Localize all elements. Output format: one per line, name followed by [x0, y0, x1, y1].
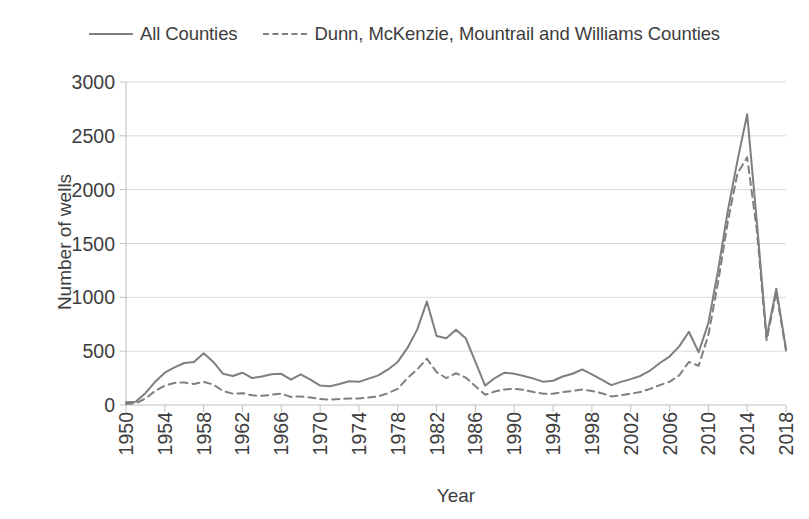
- x-tick-label: 1950: [115, 412, 138, 455]
- x-tick-label: 1974: [347, 412, 370, 455]
- y-tick-label: 500: [82, 340, 115, 363]
- x-tick-label: 1962: [231, 412, 254, 455]
- x-tick-label: 1970: [309, 412, 332, 455]
- series-line-2: [126, 157, 786, 404]
- plot-area: Number of wells 050010001500200025003000…: [126, 82, 786, 405]
- y-tick-label: 1500: [72, 232, 115, 255]
- x-axis-title: Year: [126, 485, 786, 507]
- x-tick-label: 1986: [464, 412, 487, 455]
- x-tick-label: 1954: [153, 412, 176, 455]
- x-tick-label: 2002: [619, 412, 642, 455]
- x-tick-label: 2014: [736, 412, 759, 455]
- legend-swatch-dashed-line-icon: [263, 33, 307, 35]
- legend-label-all-counties: All Counties: [140, 23, 238, 45]
- x-tick-label: 1958: [192, 412, 215, 455]
- y-tick-label: 0: [104, 394, 115, 417]
- y-tick-label: 2000: [72, 178, 115, 201]
- x-tick-label: 1990: [503, 412, 526, 455]
- x-tick-label: 2018: [775, 412, 798, 455]
- legend-entry-all-counties: All Counties: [89, 23, 238, 45]
- y-tick-label: 3000: [72, 71, 115, 94]
- chart-series: [126, 82, 786, 405]
- chart-figure: All Counties Dunn, McKenzie, Mountrail a…: [0, 0, 809, 519]
- legend-swatch-solid-line-icon: [89, 33, 133, 35]
- legend-entry-four-counties: Dunn, McKenzie, Mountrail and Williams C…: [263, 23, 720, 45]
- x-tick-label: 1978: [386, 412, 409, 455]
- chart-legend: All Counties Dunn, McKenzie, Mountrail a…: [0, 18, 809, 50]
- x-tick-label: 1966: [270, 412, 293, 455]
- x-tick-label: 1998: [580, 412, 603, 455]
- x-tick-label: 2006: [658, 412, 681, 455]
- series-line-1: [126, 114, 786, 402]
- legend-label-four-counties: Dunn, McKenzie, Mountrail and Williams C…: [314, 23, 720, 45]
- x-tick-label: 1982: [425, 412, 448, 455]
- y-tick-label: 1000: [72, 286, 115, 309]
- x-tick-label: 2010: [697, 412, 720, 455]
- y-tick-label: 2500: [72, 124, 115, 147]
- x-tick-label: 1994: [542, 412, 565, 455]
